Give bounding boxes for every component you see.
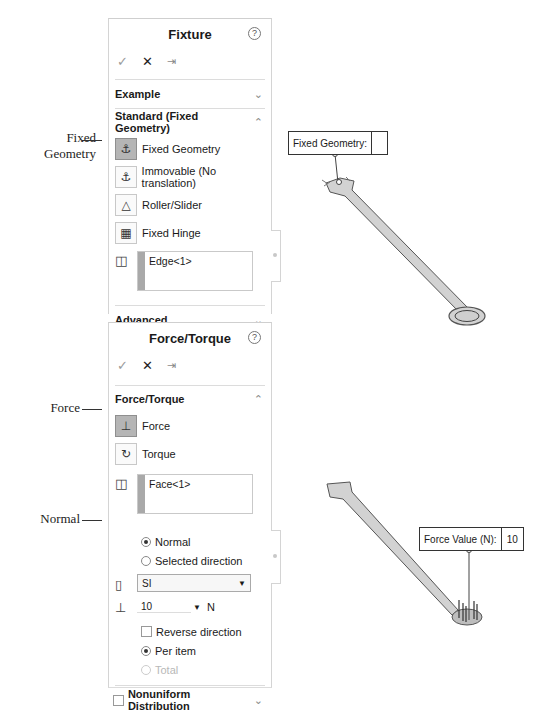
nonuniform-toggle[interactable]: Nonuniform Distribution [113,688,254,712]
callout-fixed-geometry: Fixed Geometry [20,130,96,162]
option-fixed-hinge[interactable]: ▦ Fixed Hinge [109,219,271,247]
callout-fixed-leader [82,140,102,141]
immovable-icon: ⚓ [115,166,137,188]
radio-per-item[interactable]: Per item [109,641,271,660]
chevron-down-icon: ⌄ [254,88,263,101]
option-roller-slider[interactable]: △ Roller/Slider [109,191,271,219]
fixed-geometry-tag[interactable]: Fixed Geometry: [288,131,388,155]
chevron-up-icon: ⌃ [254,393,263,406]
option-immovable[interactable]: ⚓ Immovable (No translation) [109,163,271,191]
selection-color-bar [138,252,145,290]
example-section-header[interactable]: Example ⌄ [109,80,271,108]
nonuniform-label: Nonuniform Distribution [128,688,254,712]
option-label: Torque [142,448,176,460]
force-icon: ⊥ [115,415,137,437]
option-label: Fixed Geometry [142,143,220,155]
wrench-model-fixture [0,0,548,714]
option-torque[interactable]: ↻ Torque [109,440,271,468]
callout-fixed-line1: Fixed [20,130,96,146]
callout-fixed-line2: Geometry [20,146,96,162]
radio-label: Normal [155,536,190,548]
radio-label: Total [155,664,178,676]
callout-force: Force [20,400,80,416]
radio-button[interactable] [141,556,151,566]
radio-normal[interactable]: Normal [109,532,271,551]
help-icon[interactable]: ? [248,27,261,40]
pin-button[interactable]: ⇥ [167,359,176,372]
panel-resize-handle[interactable] [271,230,281,282]
fixed-hinge-icon: ▦ [115,222,137,244]
standard-section-header[interactable]: Standard (Fixed Geometry) ⌃ [109,109,271,135]
help-icon[interactable]: ? [248,331,261,344]
option-force[interactable]: ⊥ Force [109,412,271,440]
fixture-title: Fixture [168,27,211,42]
reverse-direction-checkbox[interactable]: Reverse direction [109,622,271,641]
force-value-tag[interactable]: Force Value (N): 10 [419,527,524,551]
selection-list[interactable]: Face<1> [137,474,253,514]
dropdown-arrow-icon[interactable]: ▼ [193,603,201,612]
selection-item[interactable]: Face<1> [145,475,194,513]
force-actions: ✓ ✕ ⇥ [109,353,271,377]
tag-label: Force Value (N): [420,528,501,550]
nonuniform-section-header[interactable]: Nonuniform Distribution ⌄ [109,686,271,714]
tag-value[interactable] [371,132,387,154]
face-select-icon: ◫ [115,474,137,514]
cancel-button[interactable]: ✕ [142,358,153,373]
selection-item[interactable]: Edge<1> [145,252,196,290]
radio-selected-direction[interactable]: Selected direction [109,551,271,570]
radio-button [141,665,151,675]
selection-row: ◫ Face<1> [109,468,271,518]
option-label: Immovable (No translation) [142,165,271,189]
option-fixed-geometry[interactable]: ⚓ Fixed Geometry [109,135,271,163]
checkbox-label: Reverse direction [156,626,242,638]
panel-resize-handle[interactable] [271,530,281,584]
radio-button[interactable] [141,537,151,547]
standard-section-label: Standard (Fixed Geometry) [115,110,254,134]
units-row: ▯ SI ▼ [109,570,271,596]
chevron-up-icon: ⌃ [254,116,263,129]
fixture-actions: ✓ ✕ ⇥ [109,49,271,73]
ok-button[interactable]: ✓ [117,358,128,373]
ruler-icon: ▯ [115,575,137,592]
dropdown-arrow-icon: ▼ [238,579,246,588]
fixture-panel-header: Fixture ? [109,19,271,49]
force-torque-section-label: Force/Torque [115,393,184,405]
force-title: Force/Torque [149,331,231,346]
fixture-panel: Fixture ? ✓ ✕ ⇥ Example ⌄ Standard (Fixe… [108,18,272,314]
option-label: Roller/Slider [142,199,202,211]
force-panel-header: Force/Torque ? [109,323,271,353]
torque-icon: ↻ [115,443,137,465]
force-value-row: ⊥ 10 ▼ N [109,596,271,618]
force-icon: ⊥ [115,600,137,615]
roller-slider-icon: △ [115,194,137,216]
checkbox[interactable] [113,695,124,706]
radio-label: Selected direction [155,555,242,567]
force-unit: N [207,601,215,613]
force-value-input[interactable]: 10 [137,601,191,613]
force-torque-panel: Force/Torque ? ✓ ✕ ⇥ Force/Torque ⌃ ⊥ Fo… [108,322,272,688]
pin-button[interactable]: ⇥ [167,55,176,68]
selection-color-bar [138,475,145,513]
tag-value[interactable]: 10 [501,528,523,550]
ok-button[interactable]: ✓ [117,54,128,69]
option-label: Fixed Hinge [142,227,201,239]
fixed-geometry-icon: ⚓ [115,138,137,160]
radio-button[interactable] [141,646,151,656]
radio-total: Total [109,660,271,679]
chevron-down-icon: ⌄ [254,694,263,707]
callout-normal: Normal [10,511,80,527]
tag-label: Fixed Geometry: [289,132,371,154]
units-value: SI [142,578,151,589]
selection-row: ◫ Edge<1> [109,247,271,295]
selection-list[interactable]: Edge<1> [137,251,253,291]
force-torque-section-header[interactable]: Force/Torque ⌃ [109,386,271,412]
face-select-icon: ◫ [115,251,137,291]
radio-label: Per item [155,645,196,657]
callout-normal-leader [82,520,102,521]
units-select[interactable]: SI ▼ [137,574,251,592]
example-label: Example [115,88,160,100]
cancel-button[interactable]: ✕ [142,54,153,69]
spacer [109,518,271,532]
option-label: Force [142,420,170,432]
checkbox[interactable] [141,626,152,637]
